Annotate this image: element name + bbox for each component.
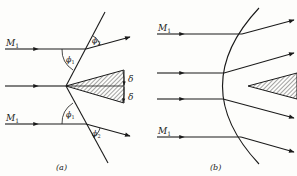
ray1-deflected: [242, 20, 294, 34]
wedge-b: [248, 73, 297, 99]
ray2-deflected: [224, 53, 294, 73]
upper-mach-label: M1: [5, 38, 19, 49]
phi2-upper-label: ϕ2: [92, 36, 101, 46]
lower-mach-label: M1: [5, 113, 19, 124]
panel-b: M1 M1 (b): [157, 8, 297, 172]
panel-a-caption: (a): [56, 163, 67, 172]
wedge: [66, 70, 124, 103]
shock-diagram: M1 M1 ϕ1 ϕ1 ϕ2 ϕ2 δ δ (a) M1 M1: [0, 0, 297, 176]
panel-a: M1 M1 ϕ1 ϕ1 ϕ2 ϕ2 δ δ (a): [5, 12, 133, 172]
ray4-deflected: [241, 137, 294, 152]
ray3-deflected: [223, 99, 294, 118]
panel-b-caption: (b): [210, 163, 221, 172]
delta-lower-label: δ: [128, 92, 133, 102]
phi1-upper-label: ϕ1: [66, 55, 75, 65]
b-lower-mach-label: M1: [157, 126, 171, 137]
phi1-lower-label: ϕ1: [66, 110, 75, 120]
b-upper-mach-label: M1: [157, 23, 171, 34]
delta-upper-label: δ: [128, 74, 133, 84]
